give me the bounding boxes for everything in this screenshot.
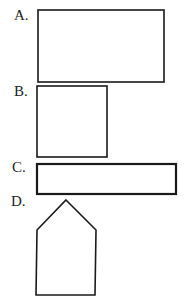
shapes-canvas: [0, 0, 187, 298]
option-c-long-rectangle: [37, 164, 176, 194]
option-a-rectangle: [38, 10, 164, 82]
option-b-square: [37, 86, 107, 157]
option-d-pentagon: [36, 200, 96, 295]
